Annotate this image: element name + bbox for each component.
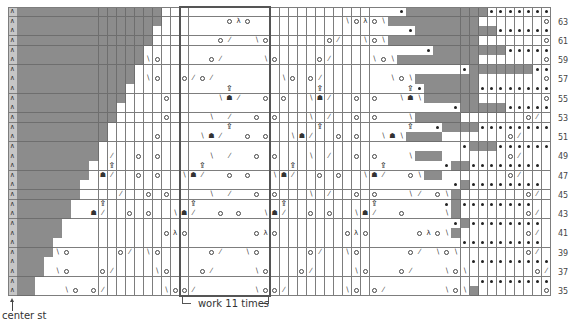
purl-dot-icon	[463, 145, 466, 148]
center-stitch-icon: ∧	[10, 66, 15, 73]
yarn-over-icon	[399, 211, 404, 216]
purl-dot-icon	[445, 164, 448, 167]
ssk-icon: ∖	[417, 95, 421, 102]
k2tog-icon: ⁄	[310, 268, 311, 275]
purl-dot-icon	[490, 203, 493, 206]
ssk-icon: ∖	[408, 191, 412, 198]
chart-cell	[542, 200, 552, 210]
cluster-bottom-icon: ☗	[272, 210, 278, 217]
ssk-icon: ∖	[363, 37, 367, 44]
ssk-icon: ∖	[463, 287, 467, 294]
cluster-bottom-icon: ☗	[281, 172, 287, 179]
purl-dot-icon	[472, 241, 475, 244]
chart-cell	[542, 238, 552, 248]
purl-dot-icon	[481, 260, 484, 263]
yarn-over-icon	[164, 231, 169, 236]
chart-cell	[542, 151, 552, 161]
chart-cell	[542, 55, 552, 65]
chart-cell	[542, 26, 552, 36]
purl-dot-icon	[527, 183, 530, 186]
ssk-icon: ∖	[146, 249, 150, 256]
cluster-top-icon: ⇪	[226, 85, 233, 93]
cluster-bottom-icon: ☗	[208, 133, 214, 140]
purl-dot-icon	[499, 29, 502, 32]
purl-dot-icon	[536, 280, 539, 283]
purl-dot-icon	[481, 87, 484, 90]
yarn-over-icon	[372, 115, 377, 120]
yarn-over-icon	[155, 57, 160, 62]
k2tog-icon: ⁄	[292, 172, 293, 179]
ssk-icon: ∖	[245, 249, 249, 256]
ssk-icon: ∖	[200, 133, 204, 140]
yarn-over-icon	[272, 192, 277, 197]
yarn-over-icon	[308, 76, 313, 81]
k2tog-icon: ⁄	[319, 249, 320, 256]
purl-dot-icon	[545, 68, 548, 71]
k2tog-icon: ⁄	[229, 37, 230, 44]
purl-dot-icon	[427, 49, 430, 52]
purl-dot-icon	[481, 241, 484, 244]
yarn-over-icon	[254, 192, 259, 197]
yarn-over-icon	[544, 38, 549, 43]
sk2p-icon: λ	[363, 18, 367, 25]
yarn-over-icon	[417, 231, 422, 236]
chart-cell	[542, 65, 552, 75]
center-stitch-icon: ∧	[10, 27, 15, 34]
chart-cell	[542, 209, 552, 219]
cluster-top-icon: ⇪	[371, 200, 378, 208]
yarn-over-icon	[372, 38, 377, 43]
purl-dot-icon	[499, 280, 502, 283]
yarn-over-icon	[372, 192, 377, 197]
row-number: 47	[558, 172, 568, 181]
purl-dot-icon	[454, 183, 457, 186]
center-stitch-icon: ∧	[10, 172, 15, 179]
purl-dot-icon	[527, 87, 530, 90]
ssk-icon: ∖	[146, 56, 150, 63]
center-stitch-icon: ∧	[10, 56, 15, 63]
purl-dot-icon	[536, 222, 539, 225]
purl-dot-icon	[527, 145, 530, 148]
yarn-over-icon	[363, 269, 368, 274]
purl-dot-icon	[518, 126, 521, 129]
k2tog-icon: ⁄	[102, 210, 103, 217]
center-stitch-icon: ∧	[10, 258, 15, 265]
yarn-over-icon	[354, 250, 359, 255]
k2tog-icon: ⁄	[328, 153, 329, 160]
center-stitch-icon: ∧	[10, 201, 15, 208]
row-number: 53	[558, 114, 568, 123]
k2tog-icon: ⁄	[337, 37, 338, 44]
purl-dot-icon	[509, 203, 512, 206]
k2tog-icon: ⁄	[102, 287, 103, 294]
ssk-icon: ∖	[254, 268, 258, 275]
purl-dot-icon	[536, 87, 539, 90]
knitting-chart: ∧∧λ∖λ∖∧∧⁄∖⁄∖∖∧∧∖⁄∖⁄∖∖∧∧∖⁄⁄∖⁄∖∖∧⇪⇪⇪∧∖☗⁄∖☗…	[8, 7, 551, 296]
chart-cell	[542, 228, 552, 238]
ssk-icon: ∖	[417, 172, 421, 179]
center-stitch-icon: ∧	[10, 75, 15, 82]
purl-dot-icon	[481, 222, 484, 225]
yarn-over-icon	[372, 96, 377, 101]
ssk-icon: ∖	[209, 191, 213, 198]
yarn-over-icon	[354, 288, 359, 293]
yarn-over-icon	[508, 154, 513, 159]
purl-dot-icon	[518, 183, 521, 186]
k2tog-icon: ⁄	[328, 114, 329, 121]
yarn-over-icon	[272, 288, 277, 293]
purl-dot-icon	[518, 145, 521, 148]
k2tog-icon: ⁄	[537, 210, 538, 217]
k2tog-icon: ⁄	[374, 210, 375, 217]
purl-dot-icon	[545, 87, 548, 90]
ssk-icon: ∖	[254, 37, 258, 44]
purl-dot-icon	[509, 145, 512, 148]
center-stitch-icon: ∧	[10, 268, 15, 275]
yarn-over-icon	[91, 288, 96, 293]
center-stitch-icon: ∧	[10, 124, 15, 131]
sk2p-icon: λ	[236, 18, 240, 25]
chart-cell	[542, 180, 552, 190]
chart-cell	[542, 248, 552, 258]
purl-dot-icon	[481, 126, 484, 129]
purl-dot-icon	[527, 10, 530, 13]
purl-dot-icon	[509, 280, 512, 283]
cluster-bottom-icon: ☗	[299, 133, 305, 140]
ssk-icon: ∖	[408, 75, 412, 82]
